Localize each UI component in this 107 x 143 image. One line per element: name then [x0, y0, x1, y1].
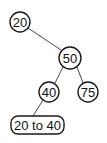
node-40-label: 40 [42, 85, 56, 100]
edge-50-75 [77, 67, 83, 83]
edge-50-40 [55, 67, 63, 83]
node-50-label: 50 [63, 51, 77, 66]
node-40: 40 [39, 82, 59, 102]
node-20-label: 20 [13, 15, 27, 30]
tree-diagram: 20 50 40 75 20 to 40 [0, 0, 107, 143]
range-node: 20 to 40 [11, 116, 64, 134]
edge-40-range [33, 100, 43, 116]
edge-20-50 [28, 28, 61, 50]
range-node-label: 20 to 40 [14, 118, 61, 133]
node-75: 75 [78, 82, 98, 102]
node-50: 50 [59, 47, 81, 69]
node-75-label: 75 [81, 85, 95, 100]
node-20: 20 [10, 12, 30, 32]
